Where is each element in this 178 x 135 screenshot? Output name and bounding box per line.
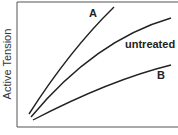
series-untreated-line: [31, 18, 171, 117]
chart-plot-area: [0, 0, 178, 135]
series-A-label: A: [89, 7, 97, 19]
series-untreated-label: untreated: [125, 38, 175, 50]
series-B-label: B: [157, 69, 165, 81]
series-A-line: [29, 7, 114, 114]
y-axis-label: Active Tension: [1, 19, 13, 109]
